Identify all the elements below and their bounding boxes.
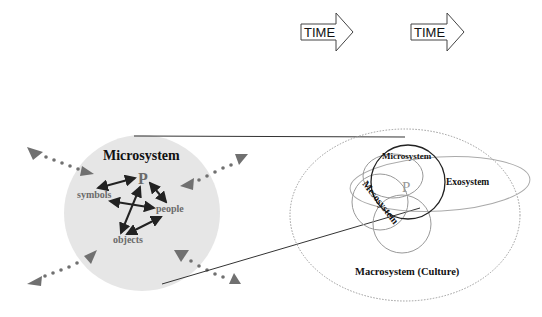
triangle-icon <box>229 273 241 284</box>
microsystem-detail: Microsystem P symbols people objects <box>27 135 248 291</box>
triangle-icon <box>235 154 248 165</box>
symbols-node: symbols <box>77 189 112 200</box>
people-node: people <box>156 203 184 214</box>
person-node: P <box>138 170 148 187</box>
microsystem-title: Microsystem <box>103 148 180 163</box>
exosystem-label: Exosystem <box>446 177 489 187</box>
person-label: P <box>402 179 410 195</box>
exosystem-ellipse <box>349 152 532 215</box>
time-label: TIME <box>304 25 335 40</box>
ecological-systems-diagram: TIME TIME <box>0 0 542 317</box>
triangle-icon <box>27 147 43 160</box>
objects-node: objects <box>113 234 143 245</box>
microsystem-label: Microsystem <box>382 151 432 161</box>
time-arrow-1: TIME <box>301 13 353 51</box>
triangle-icon <box>27 276 42 286</box>
dots <box>43 261 79 278</box>
time-label: TIME <box>414 25 445 40</box>
connector-line-top <box>134 136 405 137</box>
time-arrow-2: TIME <box>411 13 464 51</box>
macrosystem-label: Macrosystem (Culture) <box>355 266 460 278</box>
dots <box>44 155 80 171</box>
